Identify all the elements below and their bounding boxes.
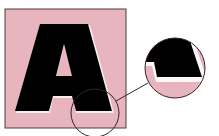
diagram-stage: Letter A with magnified edge detail Magn… <box>0 0 219 136</box>
diagram-canvas <box>0 0 219 136</box>
zoom-view <box>140 35 215 105</box>
